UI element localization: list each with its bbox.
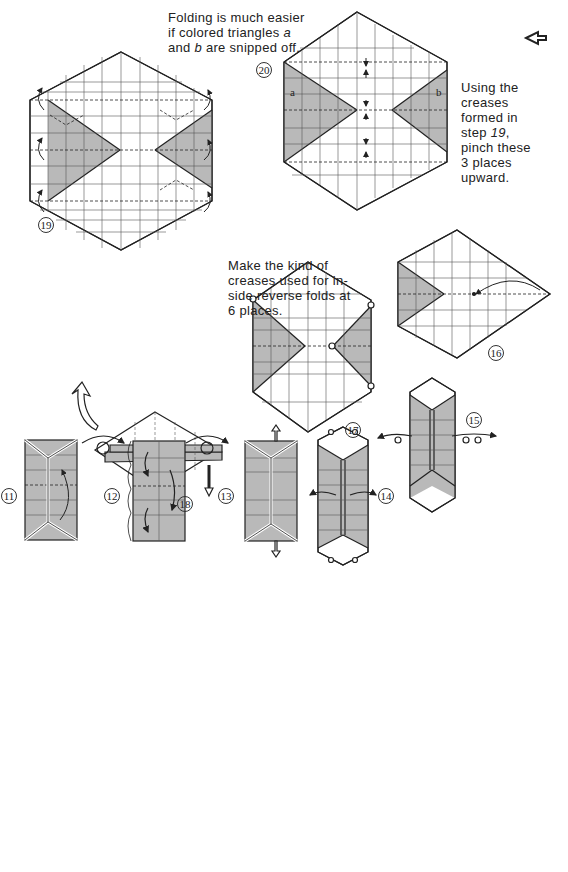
note-creases: Make the kind of creases used for in- si… [228, 258, 351, 318]
step-number-12: 12 [104, 488, 120, 504]
note-line: creases [461, 95, 531, 110]
note-line: Using the [461, 80, 531, 95]
step-number-20: 20 [256, 62, 272, 78]
text: step [461, 125, 491, 140]
label-a: a [290, 86, 295, 98]
step-13-figure [245, 425, 297, 557]
italic-a: a [283, 25, 291, 40]
step-number-17: 17 [345, 422, 361, 438]
note-line: step 19, [461, 125, 531, 140]
step-11-figure [25, 440, 77, 540]
step-number-14: 14 [378, 488, 394, 504]
note-line: side reverse folds at [228, 288, 351, 303]
note-line: 6 places. [228, 303, 351, 318]
step-12-figure [128, 441, 185, 541]
step-number-19: 19 [38, 217, 54, 233]
step-ref: 19 [491, 125, 506, 140]
step-number-16: 16 [488, 345, 504, 361]
step-number-18: 18 [177, 496, 193, 512]
text: are snipped off. [202, 40, 300, 55]
note-line: upward. [461, 170, 531, 185]
note-snip-line: Folding is much easier [168, 10, 305, 25]
step-16-figure [398, 230, 550, 358]
italic-b: b [195, 40, 203, 55]
step-number-13: 13 [218, 488, 234, 504]
note-line: 3 places [461, 155, 531, 170]
text: and [168, 40, 195, 55]
step-14-figure [310, 427, 376, 565]
note-line: formed in [461, 110, 531, 125]
note-line: Make the kind of [228, 258, 351, 273]
step-number-11: 11 [1, 488, 17, 504]
note-snip-line: if colored triangles a [168, 25, 305, 40]
note-line: creases used for in- [228, 273, 351, 288]
label-b: b [436, 86, 442, 98]
step-20-figure [284, 12, 447, 210]
note-snip-line: and b are snipped off. [168, 40, 305, 55]
note-pinch: Using the creases formed in step 19, pin… [461, 80, 531, 185]
page-next-arrow [526, 32, 546, 44]
note-snip: Folding is much easier if colored triang… [168, 10, 305, 55]
text: , [506, 125, 510, 140]
note-line: pinch these [461, 140, 531, 155]
arrow-up [72, 382, 98, 430]
text: if colored triangles [168, 25, 283, 40]
step-15-figure [378, 378, 496, 512]
step-number-15: 15 [466, 412, 482, 428]
step-19-figure [30, 52, 212, 250]
